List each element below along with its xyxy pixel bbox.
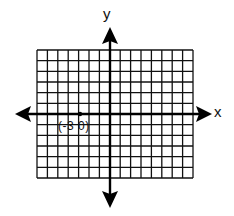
y-axis-label: y — [103, 6, 111, 21]
plotted-point — [78, 112, 82, 116]
x-axis-label: x — [214, 104, 222, 119]
coordinate-grid — [0, 0, 234, 216]
point-label: (-3 0) — [58, 120, 90, 132]
y-axis — [102, 27, 118, 208]
